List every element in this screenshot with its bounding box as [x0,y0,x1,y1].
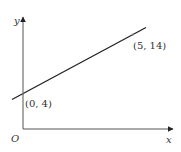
point-label-0-4: (0, 4) [25,98,52,109]
coordinate-diagram: y x O (0, 4) (5, 14) [0,0,181,152]
y-axis-label: y [13,15,20,26]
point-label-5-14: (5, 14) [133,40,166,51]
point-0-4 [22,93,24,95]
straight-line [12,28,146,100]
x-axis-label: x [166,134,172,145]
origin-label: O [11,133,19,144]
point-5-14 [132,34,134,36]
